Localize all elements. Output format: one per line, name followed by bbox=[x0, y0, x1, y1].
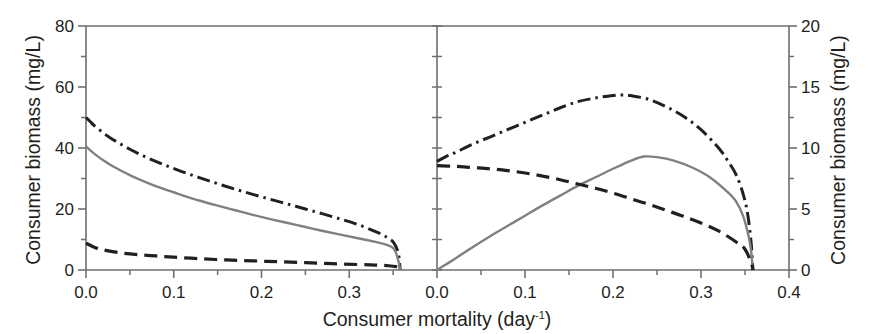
right-dash-dot-curve bbox=[437, 95, 753, 270]
right-panel-tick-labels: 051015200.00.10.20.30.4 bbox=[425, 17, 820, 302]
left-panel-frame bbox=[86, 26, 437, 270]
left-dashed-curve bbox=[86, 243, 400, 270]
right-panel: 051015200.00.10.20.30.4 bbox=[425, 17, 820, 302]
right-xtick-label: 0.0 bbox=[425, 283, 449, 302]
x-axis-title: Consumer mortality (day-1) bbox=[323, 308, 552, 330]
left-y-axis-title: Consumer biomass (mg/L) bbox=[22, 35, 44, 265]
left-ytick-label: 0 bbox=[65, 261, 74, 280]
right-dashed-curve bbox=[437, 166, 753, 270]
right-ytick-label: 20 bbox=[801, 17, 820, 36]
right-solid-gray-curve bbox=[437, 156, 753, 270]
left-dash-dot-curve bbox=[86, 118, 400, 271]
figure-container: 0204060800.00.10.20.3 051015200.00.10.20… bbox=[0, 0, 881, 334]
right-xtick-label: 0.3 bbox=[689, 283, 713, 302]
x-axis-title-exponent: -1 bbox=[535, 309, 545, 321]
left-xtick-label: 0.1 bbox=[162, 283, 186, 302]
left-panel: 0204060800.00.10.20.3 bbox=[55, 17, 442, 302]
right-panel-ticks bbox=[437, 26, 797, 278]
x-axis-title-main: Consumer mortality (day bbox=[323, 308, 536, 330]
right-xtick-label: 0.1 bbox=[513, 283, 537, 302]
right-ytick-label: 15 bbox=[801, 78, 820, 97]
left-ytick-label: 60 bbox=[55, 78, 74, 97]
right-y-axis-title: Consumer biomass (mg/L) bbox=[827, 35, 849, 265]
right-xtick-label: 0.2 bbox=[601, 283, 625, 302]
left-xtick-label: 0.0 bbox=[74, 283, 98, 302]
right-panel-frame bbox=[437, 26, 789, 270]
left-ytick-label: 80 bbox=[55, 17, 74, 36]
right-xtick-label: 0.4 bbox=[777, 283, 801, 302]
left-solid-gray-curve bbox=[86, 146, 400, 270]
left-xtick-label: 0.3 bbox=[337, 283, 361, 302]
x-axis-title-tail: ) bbox=[545, 308, 552, 330]
right-ytick-label: 5 bbox=[801, 200, 810, 219]
left-ytick-label: 40 bbox=[55, 139, 74, 158]
right-ytick-label: 10 bbox=[801, 139, 820, 158]
right-panel-curves bbox=[437, 95, 753, 270]
dual-panel-line-chart: 0204060800.00.10.20.3 051015200.00.10.20… bbox=[0, 0, 881, 334]
left-panel-curves bbox=[86, 118, 400, 271]
right-ytick-label: 0 bbox=[801, 261, 810, 280]
left-xtick-label: 0.2 bbox=[250, 283, 274, 302]
left-ytick-label: 20 bbox=[55, 200, 74, 219]
